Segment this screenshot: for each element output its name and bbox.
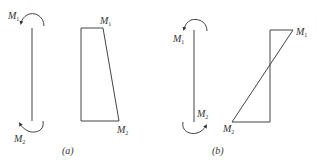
moment-arrow-icon <box>183 122 206 134</box>
trapezoid-shape <box>81 28 119 121</box>
label-m1: M1 <box>7 10 19 22</box>
beam-b: M1 M2 <box>172 19 208 133</box>
moment-arrow-icon <box>20 121 43 132</box>
beam-a: M1 M2 <box>7 10 44 145</box>
label-m2: M2 <box>116 124 128 136</box>
label-m2: M2 <box>13 133 25 145</box>
label-m1: M1 <box>295 26 307 38</box>
label-m1: M1 <box>172 33 184 45</box>
moment-arrow-icon <box>21 14 44 26</box>
crossing-triangles-shape <box>232 30 293 122</box>
label-m2: M2 <box>196 108 208 120</box>
panel-b: M1 M2 M1 M2 (b) <box>172 19 307 157</box>
figure-canvas: M1 M2 M1 M2 (a) M1 M2 M1 M2 (b) <box>0 0 317 168</box>
caption-b: (b) <box>212 145 224 157</box>
moment-diagram-b: M1 M2 <box>222 26 307 135</box>
panel-a: M1 M2 M1 M2 (a) <box>7 10 128 157</box>
label-m1: M1 <box>99 15 111 27</box>
moment-diagram-a: M1 M2 <box>81 15 128 136</box>
label-m2: M2 <box>222 123 234 135</box>
caption-a: (a) <box>62 145 74 157</box>
moment-arrow-icon <box>184 19 207 31</box>
